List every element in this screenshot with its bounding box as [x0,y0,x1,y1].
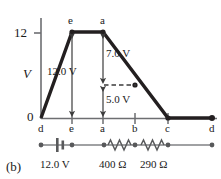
y-tick-label-0: 0 [27,110,34,123]
resistor-290-label: 290 Ω [140,159,167,170]
circuit-schematic [39,138,215,152]
x-tick-label-e: e [69,123,74,134]
circuit-node-b [133,143,138,148]
y-axis-label: V [23,67,31,80]
resistor-400-label: 400 Ω [99,159,126,170]
circuit-node-e [70,143,75,148]
battery-label: 12.0 V [40,159,70,170]
curve-point-e [69,29,74,34]
curve-point-d-right [209,115,215,121]
figure-panel-b: 12 0 V e a d e a b c d 12.0 V 7.0 V 5.0 … [0,0,221,179]
annotation-label-5v: 5.0 V [106,94,130,105]
curve-point-a [100,29,105,34]
x-tick-label-d-right: d [209,123,215,134]
circuit-node-c [166,143,171,148]
curve-point-c [165,115,170,120]
x-tick-label-b: b [132,123,138,134]
x-tick-label-a: a [100,123,105,134]
annotation-label-7v: 7.0 V [106,48,130,59]
y-tick-label-12: 12 [14,26,27,39]
curve-label-e-top: e [68,15,73,26]
circuit-node-d-left [39,143,44,148]
x-tick-label-d-left: d [38,123,44,134]
circuit-node-d-right [210,143,215,148]
curve-label-a-top: a [100,15,105,26]
panel-label: (b) [6,160,21,173]
annotation-label-12v: 12.0 V [47,66,77,77]
battery-long-plate [56,138,59,152]
figure-graphics [0,0,221,179]
circuit-node-a [102,143,107,148]
x-tick-label-c: c [165,123,170,134]
battery-short-plate [62,141,65,150]
